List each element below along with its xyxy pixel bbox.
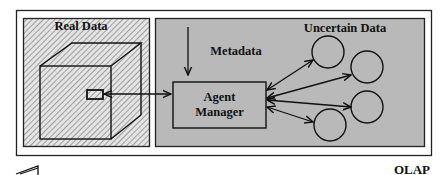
olap-caption: OLAP xyxy=(394,162,430,175)
metadata-label: Metadata xyxy=(210,44,262,58)
cropped-figure-fragment xyxy=(16,166,38,175)
olap-diagram: Real Data Uncertain Data Metadata Agent … xyxy=(0,0,441,175)
agent-manager-label-line1: Agent xyxy=(204,90,237,104)
uncertain-data-label: Uncertain Data xyxy=(304,21,387,35)
real-data-panel: Real Data xyxy=(24,19,150,147)
agent-manager-label-line2: Manager xyxy=(195,105,244,119)
real-data-label: Real Data xyxy=(54,19,108,33)
uncertain-data-panel: Uncertain Data Metadata Agent Manager xyxy=(156,19,425,147)
